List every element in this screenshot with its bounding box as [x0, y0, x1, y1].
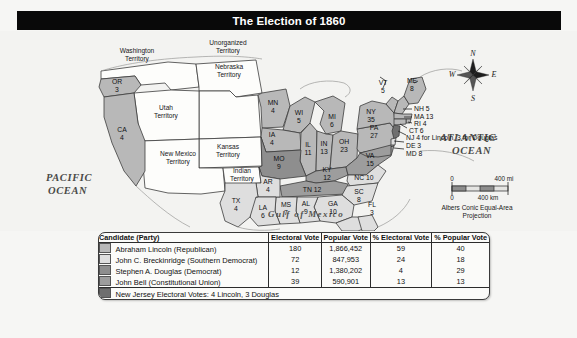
state-label-mn-abbr: MN: [268, 99, 279, 106]
territory-shape-nebraska: [199, 91, 261, 139]
territory-label-nebraska-1: Nebraska: [215, 63, 244, 70]
leader-label-ct: CT 6: [409, 127, 424, 134]
state-label-pa-votes: 27: [370, 132, 378, 139]
state-label-wi-abbr: WI: [295, 109, 303, 116]
state-label-la-votes: 6: [261, 212, 265, 219]
state-label-ga-votes: 10: [329, 208, 337, 215]
territory-label-washington-1: Washington: [120, 47, 155, 55]
footer-note-text: New Jersey Electoral Votes: 4 Lincoln, 3…: [116, 290, 279, 299]
state-label-in-votes: 13: [320, 148, 328, 155]
state-shape-ma: [394, 113, 412, 119]
state-label-nc: NC 10: [354, 174, 373, 181]
state-label-vt-votes: 5: [381, 87, 385, 94]
cell-pct-electoral: 4: [370, 265, 432, 276]
state-label-ia-votes: 4: [270, 139, 274, 146]
table-row: Abraham Lincoln (Republican) 180 1,866,4…: [99, 243, 489, 255]
territory-label-newmexico-1: New Mexico: [160, 150, 196, 157]
cell-electoral: 180: [269, 243, 322, 255]
cell-pct-electoral: 59: [370, 243, 432, 255]
territory-label-kansas-2: Territory: [216, 151, 241, 159]
state-label-tx-votes: 4: [234, 205, 238, 212]
state-label-me-abbr: ME: [407, 77, 418, 84]
table-header-row: Candidate (Party) Electoral Vote Popular…: [99, 233, 489, 243]
election-results-table: Candidate (Party) Electoral Vote Popular…: [98, 232, 490, 300]
state-label-or-abbr: OR: [112, 78, 122, 85]
leader-label-md: MD 8: [406, 150, 422, 157]
leader-label-de: DE 3: [406, 142, 421, 149]
state-label-ky-votes: 12: [323, 174, 331, 181]
cell-pct-popular: 13: [432, 276, 489, 288]
territory-label-indian-1: Indian: [233, 167, 251, 174]
state-label-il-abbr: IL: [305, 141, 311, 148]
state-label-mn-votes: 4: [271, 107, 275, 114]
state-label-ar-abbr: AR: [263, 178, 273, 185]
leader-label-ri: RI 4: [414, 120, 427, 127]
ocean-label-pacific-line1: PACIFIC: [46, 172, 92, 183]
territory-label-utah-2: Territory: [154, 112, 179, 120]
cell-popular: 590,901: [321, 276, 370, 288]
ocean-label-atlantic-line2: OCEAN: [452, 145, 491, 156]
header-pct-electoral-vote: % Electoral Vote: [370, 233, 432, 243]
state-label-in-abbr: IN: [321, 140, 328, 147]
table-row: John Bell (Constitutional Union) 39 590,…: [99, 276, 489, 288]
legend-swatch-bell: [99, 276, 111, 286]
state-label-mo-votes: 9: [277, 163, 281, 170]
cell-candidate: John Bell (Constitutional Union): [99, 276, 269, 288]
state-label-ga-abbr: GA: [328, 200, 338, 207]
ocean-label-pacific-line2: OCEAN: [48, 185, 87, 196]
compass-label-east: E: [491, 70, 497, 79]
state-label-me-votes: 8: [410, 85, 414, 92]
header-popular-vote: Popular Vote: [321, 233, 370, 243]
territory-label-newmexico-2: Territory: [166, 158, 191, 166]
legend-swatch-lincoln: [99, 243, 111, 253]
territory-label-kansas-1: Kansas: [217, 143, 240, 150]
scale-label-mi-max: 400 mi: [495, 175, 514, 182]
cell-pct-popular: 40: [432, 243, 489, 255]
state-label-wi-votes: 5: [297, 117, 301, 124]
state-label-mo-abbr: MO: [274, 155, 285, 162]
state-label-oh-abbr: OH: [339, 138, 349, 145]
cell-popular: 1,380,202: [321, 265, 370, 276]
map-title-bar: The Election of 1860: [17, 11, 561, 30]
state-label-pa-abbr: PA: [370, 124, 379, 131]
cell-candidate: Stephen A. Douglas (Democrat): [99, 265, 269, 276]
state-label-ms-abbr: MS: [281, 201, 292, 208]
cell-popular: 1,866,452: [321, 243, 370, 255]
state-label-va-votes: 15: [366, 160, 374, 167]
cell-popular: 847,953: [321, 254, 370, 265]
table-footer-row: New Jersey Electoral Votes: 4 Lincoln, 3…: [99, 288, 489, 300]
projection-label-line1: Albers Conic Equal-Area: [441, 204, 513, 212]
state-label-vt-abbr: VT: [379, 79, 388, 86]
page-title: The Election of 1860: [232, 15, 345, 27]
results-table: Candidate (Party) Electoral Vote Popular…: [99, 233, 489, 299]
compass-label-north: N: [469, 49, 476, 58]
legend-swatch-douglas: [99, 265, 111, 275]
territory-label-utah-1: Utah: [159, 104, 173, 111]
cell-electoral: 12: [269, 265, 322, 276]
territory-label-unorganized-1: Unorganized: [209, 39, 247, 47]
territory-label-washington-2: Territory: [125, 55, 150, 63]
scale-label-km-zero: 0: [450, 194, 454, 201]
state-label-fl-abbr: FL: [368, 201, 376, 208]
leader-label-nj: NJ 4 for Lincoln, 3 for Douglas: [406, 134, 498, 142]
election-map: .o{stroke:#3c3c3c;stroke-width:.8;stroke…: [0, 31, 577, 231]
candidate-name: Abraham Lincoln (Republican): [116, 245, 217, 254]
state-label-ia-abbr: IA: [269, 131, 276, 138]
state-label-tn: TN 12: [303, 186, 322, 193]
legend-swatch-breckinridge: [99, 254, 111, 264]
territory-label-nebraska-2: Territory: [217, 71, 242, 79]
table-row: Stephen A. Douglas (Democrat) 12 1,380,2…: [99, 265, 489, 276]
cell-pct-electoral: 13: [370, 276, 432, 288]
cell-candidate: Abraham Lincoln (Republican): [99, 243, 269, 255]
leader-label-ma: MA 13: [414, 113, 433, 120]
state-label-tx-abbr: TX: [232, 197, 241, 204]
state-label-al-abbr: AL: [302, 200, 311, 207]
territory-label-indian-2: Territory: [230, 175, 255, 183]
header-electoral-vote: Electoral Vote: [269, 233, 322, 243]
cell-pct-electoral: 24: [370, 254, 432, 265]
state-label-fl-votes: 3: [370, 209, 374, 216]
table-row: John C. Breckinridge (Southern Democrat)…: [99, 254, 489, 265]
scale-label-km-max: 400 km: [478, 194, 499, 201]
state-label-oh-votes: 23: [340, 146, 348, 153]
leader-label-nh: NH 5: [414, 105, 430, 112]
